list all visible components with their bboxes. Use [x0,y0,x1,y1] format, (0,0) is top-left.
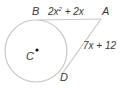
point-label-b: B [32,6,39,17]
segment-label-ab-rest: + 2x [62,6,84,17]
segment-label-ab-base: 2x [48,6,59,17]
point-label-c: C [26,51,34,62]
segment-label-ab: 2x2 + 2x [48,6,84,17]
tangent-segment-ab [38,19,101,20]
center-dot-icon [35,48,38,51]
point-label-a: A [102,6,109,17]
segment-label-ad: 7x + 12 [83,41,116,51]
point-label-d: D [60,72,68,83]
